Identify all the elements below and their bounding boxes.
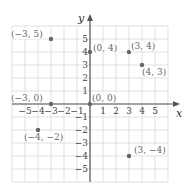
point-label: (−4, −2) xyxy=(24,132,63,142)
x-tick-label: 5 xyxy=(152,106,158,116)
y-tick-label: 1 xyxy=(82,86,88,96)
y-tick-label: 2 xyxy=(82,73,88,83)
y-axis-arrow-icon xyxy=(87,14,93,21)
y-tick-label: −5 xyxy=(75,164,89,174)
y-tick-label: 4 xyxy=(82,47,88,57)
x-axis-label: x xyxy=(176,107,183,120)
x-tick-label: −5 xyxy=(18,106,32,116)
y-tick-label: −4 xyxy=(75,151,89,161)
point-label: (0, 0) xyxy=(92,93,116,103)
x-tick-label: −2 xyxy=(57,106,70,116)
y-tick-label: −3 xyxy=(75,138,89,148)
x-tick-label: 3 xyxy=(126,106,132,116)
coordinate-plane: xy−5−4−3−2−11234554321−1−2−3−4−5(−3, 5)(… xyxy=(0,0,190,195)
point-label: (3, −4) xyxy=(134,145,166,155)
y-tick-label: −2 xyxy=(75,125,88,135)
point-label: (−3, 5) xyxy=(11,29,43,39)
data-point xyxy=(49,37,53,41)
point-label: (3, 4) xyxy=(131,41,155,51)
x-tick-label: 1 xyxy=(100,106,106,116)
y-tick-label: −1 xyxy=(75,112,88,122)
y-tick-label: 3 xyxy=(82,60,88,70)
point-label: (4, 3) xyxy=(142,67,166,77)
x-tick-label: −4 xyxy=(31,106,45,116)
x-tick-label: 2 xyxy=(113,106,119,116)
data-point xyxy=(127,154,131,158)
x-tick-label: −3 xyxy=(44,106,58,116)
data-point xyxy=(49,102,53,106)
y-axis-label: y xyxy=(77,12,85,25)
data-point xyxy=(88,50,92,54)
point-label: (0, 4) xyxy=(93,43,117,53)
y-tick-label: 5 xyxy=(82,34,88,44)
point-label: (−3, 0) xyxy=(11,93,43,103)
x-tick-label: 4 xyxy=(139,106,145,116)
